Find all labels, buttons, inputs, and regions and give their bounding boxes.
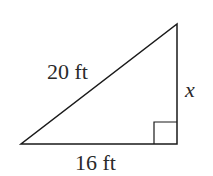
right-triangle-diagram: 20 ft 16 ft x [0, 0, 213, 176]
vertical-side-label: x [184, 77, 195, 102]
right-angle-marker [154, 122, 177, 144]
base-label: 16 ft [75, 150, 116, 175]
hypotenuse-label: 20 ft [47, 59, 88, 84]
